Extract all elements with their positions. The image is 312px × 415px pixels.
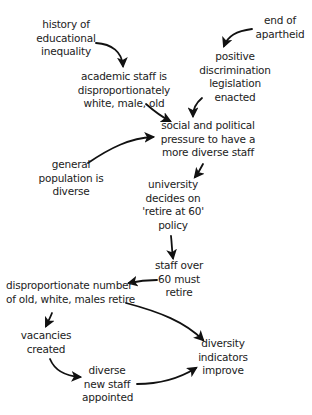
arrow-university-to-staff60 xyxy=(171,236,173,258)
node-line: apartheid xyxy=(254,28,306,42)
node-line: pressure to have a xyxy=(158,133,258,147)
node-line: indicators xyxy=(195,351,251,365)
node-line: policy xyxy=(140,219,206,233)
node-line: diverse xyxy=(82,364,132,378)
node-vacancies-created: vacancies created xyxy=(20,329,72,356)
node-line: general xyxy=(36,158,106,172)
node-general-population: general population is diverse xyxy=(36,158,106,199)
node-line: decides on xyxy=(140,192,206,206)
node-line: 60 must xyxy=(152,273,206,287)
node-line: legislation xyxy=(196,77,274,91)
node-line: 'retire at 60' xyxy=(140,205,206,219)
node-disproportionate-retire: disproportionate number of old, white, m… xyxy=(6,279,130,306)
node-diverse-new-staff: diverse new staff appointed xyxy=(82,364,132,405)
node-line: academic staff is xyxy=(72,70,176,84)
node-line: history of xyxy=(35,18,97,32)
node-line: improve xyxy=(195,364,251,378)
node-diversity-indicators-improve: diversity indicators improve xyxy=(195,337,251,378)
node-line: of old, white, males retire xyxy=(6,293,130,307)
arrow-history-to-academic xyxy=(96,43,123,66)
node-line: more diverse staff xyxy=(158,146,258,160)
node-line: staff over xyxy=(152,259,206,273)
arrow-pressure-to-university xyxy=(195,164,203,177)
node-social-political-pressure: social and political pressure to have a … xyxy=(158,119,258,160)
node-line: social and political xyxy=(158,119,258,133)
node-line: enacted xyxy=(196,91,274,105)
node-line: diversity xyxy=(195,337,251,351)
node-line: population is xyxy=(36,172,106,186)
node-line: disproportionate number xyxy=(6,279,130,293)
node-line: discrimination xyxy=(196,64,274,78)
node-positive-discrimination: positive discrimination legislation enac… xyxy=(196,50,274,104)
node-university-retire-policy: university decides on 'retire at 60' pol… xyxy=(140,178,206,232)
node-line: educational xyxy=(35,32,97,46)
node-line: inequality xyxy=(35,45,97,59)
node-line: new staff xyxy=(82,378,132,392)
node-line: white, male, old xyxy=(72,97,176,111)
causal-diagram: history of educational inequality end of… xyxy=(0,0,312,415)
node-line: end of xyxy=(254,14,306,28)
node-history-of-educational-inequality: history of educational inequality xyxy=(35,18,97,59)
arrow-apartheid-to-positive xyxy=(224,29,252,46)
node-end-of-apartheid: end of apartheid xyxy=(254,14,306,41)
node-line: vacancies xyxy=(20,329,72,343)
node-line: appointed xyxy=(82,391,132,405)
node-line: positive xyxy=(196,50,274,64)
node-staff-over-60: staff over 60 must retire xyxy=(152,259,206,300)
node-line: university xyxy=(140,178,206,192)
arrow-diverse-to-indicators xyxy=(137,368,196,384)
arrow-vacancies-to-diverse xyxy=(50,359,80,377)
node-line: retire xyxy=(152,286,206,300)
arrow-disproportionate-to-indicators xyxy=(126,303,203,340)
node-line: diverse xyxy=(36,185,106,199)
node-line: created xyxy=(20,343,72,357)
arrow-disproportionate-to-vacancies xyxy=(46,313,52,326)
node-academic-staff: academic staff is disproportionately whi… xyxy=(72,70,176,111)
node-line: disproportionately xyxy=(72,84,176,98)
